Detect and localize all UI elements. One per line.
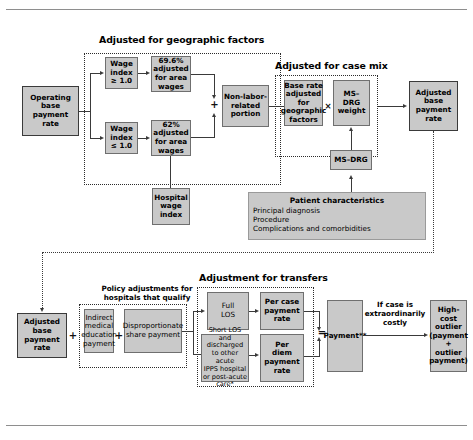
- arrow-msdrg-to-weight: [349, 127, 353, 131]
- arrow-wage-low-to-62: [146, 136, 150, 140]
- patient-characteristics-item-1: Procedure: [253, 215, 421, 224]
- arrow-to-wage-index-low: [100, 136, 104, 140]
- operator-plus-geographic: +: [209, 100, 220, 110]
- operator-times: ×: [324, 101, 332, 111]
- node-adjusted-69-6-percent: 69.6% adjusted for area wages: [151, 56, 191, 92]
- node-disproportionate-share-payment: Disproportionate share payment: [124, 309, 182, 353]
- node-adjusted-base-payment-rate-bottom: Adjusted base payment rate: [17, 313, 67, 358]
- arrow-connector-into-adjusted-base: [40, 308, 44, 312]
- arrow-to-wage-index-high: [100, 71, 104, 75]
- operator-plus-policy-1: +: [68, 331, 78, 341]
- connector-down-left: [42, 252, 43, 310]
- arrow-payment-to-outlier: [424, 333, 428, 337]
- node-wage-index-high: Wage index ≥ 1.0: [105, 57, 138, 89]
- node-high-cost-outlier: High- cost outlier (payment + outlier pa…: [430, 300, 467, 372]
- node-short-los-discharged: Short LOS and discharged to other acute …: [201, 334, 249, 382]
- arrow-short-los-to-per-diem: [255, 353, 259, 357]
- node-non-labor-related-portion: Non-labor- related portion: [222, 85, 269, 127]
- section-title-case-mix: Adjusted for case mix: [275, 60, 388, 71]
- top-rule: [6, 9, 467, 10]
- section-title-transfers: Adjustment for transfers: [199, 272, 328, 283]
- node-base-rate-adjusted-geographic: Base rate adjusted for geographic factor…: [284, 80, 323, 126]
- node-adjusted-62-percent: 62% adjusted for area wages: [151, 120, 191, 156]
- node-operating-base-payment-rate: Operating base payment rate: [22, 86, 79, 136]
- node-hospital-wage-index: Hospital wage index: [152, 188, 190, 225]
- node-full-los: Full LOS: [207, 292, 249, 330]
- arrow-casemix-to-adjusted-base: [403, 104, 407, 108]
- patient-characteristics-item-2: Complications and comorbidities: [253, 224, 421, 233]
- arrow-merge-low: [212, 113, 216, 117]
- node-indirect-medical-education-payment: Indirect medical education payment: [84, 309, 114, 353]
- node-msdrg-weight: MS–DRG weight: [333, 80, 370, 126]
- node-per-diem-payment-rate: Per diem payment rate: [260, 334, 304, 382]
- node-payment: Payment**: [327, 300, 363, 372]
- arrow-wage-high-to-696: [146, 71, 150, 75]
- line-hospital-wage-index: [170, 156, 171, 188]
- patient-characteristics-item-0: Principal diagnosis: [253, 206, 421, 215]
- annotation-if-case-line3: costly: [363, 319, 427, 328]
- node-per-case-payment-rate: Per case payment rate: [260, 292, 304, 330]
- node-msdrg: MS–DRG: [330, 150, 372, 170]
- section-title-policy-line2: hospitals that qualify: [86, 294, 208, 303]
- connector-across: [42, 252, 434, 253]
- node-adjusted-base-payment-rate-top: Adjusted base payment rate: [409, 81, 458, 131]
- node-wage-index-low: Wage index ≤ 1.0: [105, 122, 138, 154]
- section-title-geographic: Adjusted for geographic factors: [99, 34, 264, 45]
- connector-down-right: [433, 131, 434, 253]
- patient-characteristics-title: Patient characteristics: [253, 196, 421, 205]
- flowchart-canvas: Adjusted for geographic factors Operatin…: [0, 0, 473, 440]
- patient-characteristics-panel: Patient characteristics Principal diagno…: [248, 192, 426, 240]
- bottom-rule: [6, 425, 467, 426]
- arrow-patient-to-msdrg: [349, 175, 353, 179]
- arrow-full-los-to-per-case: [255, 309, 259, 313]
